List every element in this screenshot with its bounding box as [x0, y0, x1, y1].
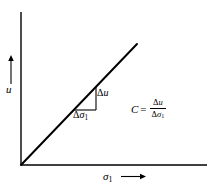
plot-canvas — [0, 0, 217, 192]
equation-numerator: Δu — [151, 98, 165, 108]
up-arrow-icon — [8, 55, 14, 84]
data-line-series-1 — [21, 44, 137, 165]
delta-sigma-1-label: Δσ1 — [73, 110, 88, 120]
equation-lhs: C — [131, 103, 138, 115]
right-arrow-icon — [121, 174, 146, 180]
numerator-variable: u — [159, 97, 163, 107]
y-axis-label: u — [6, 84, 12, 95]
figure-container: u σ1 Δu Δσ1 C = Δu Δσ1 — [0, 0, 217, 192]
x-axis-label: σ1 — [103, 171, 112, 182]
x-axis-label-subscript: 1 — [108, 175, 112, 184]
equation-equals-sign: = — [140, 103, 146, 115]
delta-sigma-subscript: 1 — [84, 114, 88, 122]
denominator-subscript: 1 — [161, 113, 164, 119]
delta-u-label: Δu — [97, 88, 108, 98]
coefficient-equation: C = Δu Δσ1 — [131, 98, 166, 120]
delta-u-variable: u — [103, 87, 108, 98]
equation-fraction: Δu Δσ1 — [150, 98, 167, 120]
equation-denominator: Δσ1 — [150, 109, 167, 119]
